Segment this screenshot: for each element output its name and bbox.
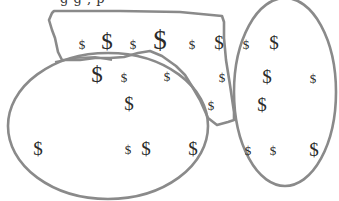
dollar-sign-icon: $ [269,33,279,52]
dollar-sign-icon: $ [262,67,272,86]
dollar-sign-icon: $ [141,139,151,158]
dollar-sign-icon: $ [130,38,137,51]
dollar-sign-icon: $ [101,30,113,53]
dollar-sign-icon: $ [121,71,128,84]
dollar-sign-icon: $ [219,71,226,84]
dollar-sign-icon: $ [124,94,134,113]
dollar-sign-icon: $ [188,139,198,158]
dollar-sign-icon: $ [79,38,86,51]
dollar-sign-icon: $ [243,38,250,51]
dollar-sign-icon: $ [214,33,224,52]
dollar-sign-icon: $ [310,72,317,85]
dollar-sign-icon: $ [208,99,215,112]
dollar-sign-icon: $ [257,95,267,114]
dollar-sign-icon: $ [33,139,43,158]
dollar-sign-icon: $ [189,38,196,51]
dollar-sign-icon: $ [245,144,252,157]
dollar-sign-icon: $ [164,70,171,83]
right-ellipse-outline [234,0,336,186]
dollar-sign-icon: $ [91,63,103,86]
dollar-sign-icon: $ [125,143,132,156]
left-ellipse-outline [8,53,208,199]
dollar-sign-icon: $ [153,27,167,54]
dollar-sign-icon: $ [309,140,319,159]
region-outlines [0,0,339,201]
dollar-sign-icon: $ [270,144,277,157]
